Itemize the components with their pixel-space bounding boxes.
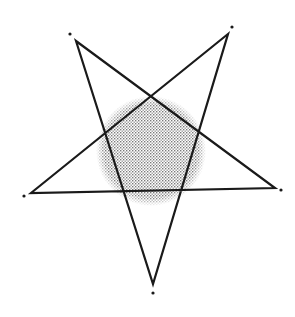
bottom-dot bbox=[151, 291, 154, 294]
top-right-dot bbox=[230, 25, 233, 28]
diagram-canvas bbox=[0, 0, 295, 317]
left-dot bbox=[22, 194, 25, 197]
right-dot bbox=[279, 188, 282, 191]
pentagram-diagram bbox=[0, 0, 295, 317]
top-left-dot bbox=[68, 32, 71, 35]
